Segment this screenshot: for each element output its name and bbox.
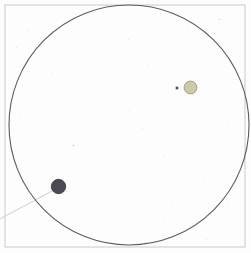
speckle-dot [28, 31, 29, 32]
speckle-dot [120, 147, 121, 148]
speckle-dot [144, 198, 145, 199]
dark-disc [51, 179, 65, 193]
paper-background [0, 0, 251, 253]
speckle-dot [128, 39, 129, 40]
speckle-dot [49, 220, 50, 221]
speckle-dot [158, 243, 159, 244]
speckle-dot [210, 72, 211, 73]
speckle-dot [45, 125, 46, 126]
speckle-dot [97, 50, 98, 51]
speckle-dot [199, 129, 200, 130]
speckle-dot [97, 124, 98, 125]
speckle-dot [37, 98, 38, 99]
speckle-dot [107, 218, 108, 219]
speckle-dot [233, 102, 234, 103]
speckle-dot [232, 176, 233, 177]
speckle-dot [202, 95, 203, 96]
speckle-dot [228, 124, 229, 125]
speckle-dot [134, 160, 135, 161]
speckle-dot [149, 183, 150, 184]
speckle-dot [73, 145, 75, 147]
speckle-dot [16, 151, 17, 152]
speckle-dot [69, 203, 70, 204]
speckle-dot [190, 151, 191, 152]
speckle-dot [193, 225, 194, 226]
speckle-dot [116, 96, 117, 97]
speckle-dot [16, 47, 17, 48]
speckle-dot [104, 182, 105, 183]
speckle-dot [87, 101, 88, 102]
speckle-dot [147, 64, 148, 65]
speckle-dot [78, 224, 79, 225]
speckle-dot [113, 132, 114, 133]
speckle-dot [188, 24, 189, 25]
speckle-dot [155, 104, 156, 105]
speckle-dot [95, 196, 96, 197]
speckle-dot [177, 176, 178, 177]
speckle-dot [28, 29, 29, 30]
speckle-dot [110, 69, 111, 70]
speckle-dot [171, 77, 172, 78]
speckle-dot [119, 205, 120, 206]
speckle-dot [199, 197, 200, 198]
speckle-dot [84, 66, 85, 67]
speckle-dot [75, 14, 76, 15]
speckle-dot [164, 219, 165, 220]
speckle-dot [165, 121, 166, 122]
speckle-dot [233, 12, 234, 13]
speckle-dot [85, 176, 86, 177]
speckle-dot [238, 73, 239, 74]
speckle-dot [240, 150, 241, 151]
speckle-dot [72, 129, 73, 130]
speckle-dot [196, 50, 197, 51]
field-sketch-svg [0, 0, 251, 253]
speckle-dot [67, 47, 68, 48]
speckle-dot [226, 51, 227, 52]
companion-marker [176, 87, 179, 90]
speckle-dot [63, 92, 64, 93]
speckle-dot [52, 72, 53, 73]
speckle-dot [40, 158, 41, 159]
speckle-dot [163, 155, 164, 156]
speckle-dot [116, 240, 117, 241]
speckle-dot [216, 158, 217, 159]
speckle-dot [20, 118, 21, 119]
speckle-dot [160, 48, 161, 49]
speckle-dot [241, 234, 242, 235]
speckle-dot [228, 203, 229, 204]
speckle-dot [206, 239, 207, 240]
speckle-dot [142, 128, 143, 129]
speckle-dot [93, 152, 94, 153]
speckle-dot [128, 110, 129, 111]
speckle-dot [221, 217, 222, 218]
speckle-dot [136, 226, 137, 227]
speckle-dot [105, 22, 106, 23]
speckle-dot [66, 64, 67, 65]
speckle-dot [172, 202, 173, 203]
speckle-dot [26, 178, 27, 179]
speckle-dot [12, 89, 13, 90]
speckle-dot [146, 15, 147, 16]
olive-disc [184, 81, 197, 94]
speckle-dot [126, 175, 127, 176]
observation-field-canvas [0, 0, 251, 253]
speckle-dot [178, 99, 179, 100]
speckle-dot [203, 181, 204, 182]
speckle-dot [171, 137, 172, 138]
speckle-dot [219, 19, 221, 21]
